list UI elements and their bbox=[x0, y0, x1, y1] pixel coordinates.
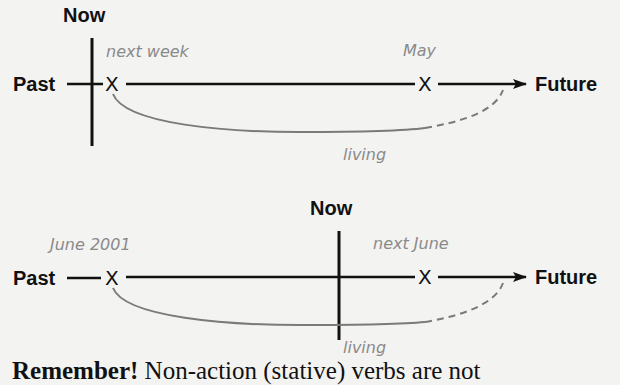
now-label: Now bbox=[63, 4, 106, 26]
event-1-label: June 2001 bbox=[47, 235, 131, 254]
past-label: Past bbox=[13, 267, 56, 289]
event-1-label: next week bbox=[106, 42, 190, 61]
span-label: living bbox=[343, 145, 386, 164]
timeline-2: Now Past X X Future June 2001 next June … bbox=[13, 197, 597, 357]
now-label: Now bbox=[310, 197, 353, 219]
span-curve-solid bbox=[113, 288, 425, 325]
event-2-label: May bbox=[403, 41, 437, 60]
footer-emphasis: Remember! bbox=[12, 357, 138, 384]
span-label: living bbox=[343, 338, 386, 357]
span-curve-dashed bbox=[425, 283, 503, 322]
event-2-marker: X bbox=[418, 72, 432, 96]
footer-text: Non-action (stative) verbs are not bbox=[138, 357, 480, 384]
event-2-marker: X bbox=[418, 265, 432, 289]
event-1-marker: X bbox=[105, 266, 119, 290]
event-2-label: next June bbox=[373, 234, 449, 253]
span-curve-solid bbox=[113, 94, 425, 132]
timeline-1: Now Past X X Future next week May living bbox=[13, 4, 597, 164]
past-label: Past bbox=[13, 73, 56, 95]
event-1-marker: X bbox=[105, 72, 119, 96]
future-label: Future bbox=[535, 266, 597, 288]
footer-note: Remember! Non-action (stative) verbs are… bbox=[12, 357, 481, 385]
span-curve-dashed bbox=[425, 90, 503, 128]
future-label: Future bbox=[535, 73, 597, 95]
